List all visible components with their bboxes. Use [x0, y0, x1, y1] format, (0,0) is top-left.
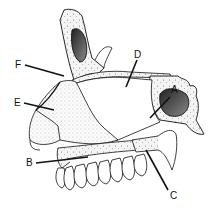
label-B: B [26, 158, 33, 168]
label-D: D [134, 50, 141, 60]
label-A: A [171, 85, 178, 95]
label-C: C [170, 191, 177, 201]
leader-F [25, 65, 64, 76]
label-E: E [14, 98, 21, 108]
soft-palate [132, 136, 161, 152]
anatomy-drawing [0, 0, 222, 211]
frontal-bone [60, 9, 104, 80]
nasal-anatomy-figure: A B C D E F [0, 0, 222, 211]
label-F: F [15, 60, 21, 70]
